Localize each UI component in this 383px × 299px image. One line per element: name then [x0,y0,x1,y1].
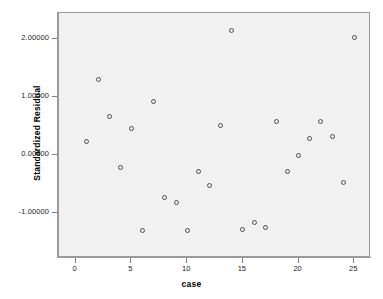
data-point [296,153,301,158]
x-axis-title: case [0,279,383,289]
data-point [263,225,268,230]
data-point [162,195,167,200]
data-point [129,126,134,131]
data-point [107,114,112,119]
data-point [140,228,145,233]
x-tick-label: 5 [115,264,145,273]
data-point [229,28,234,33]
x-tick-label: 25 [338,264,368,273]
data-point [307,136,312,141]
x-tick-mark [75,258,76,263]
x-tick-label: 20 [283,264,313,273]
x-tick-label: 10 [171,264,201,273]
data-point [352,35,357,40]
x-axis-line [58,257,371,258]
data-points-layer [59,13,369,256]
x-tick-mark [353,258,354,263]
data-point [207,183,212,188]
x-tick-mark [130,258,131,263]
plot-area [58,12,370,257]
data-point [196,169,201,174]
x-tick-label: 0 [60,264,90,273]
data-point [252,220,257,225]
data-point [330,134,335,139]
x-tick-mark [242,258,243,263]
x-tick-label: 15 [227,264,257,273]
data-point [174,200,179,205]
data-point [151,99,156,104]
y-tick-mark [52,96,57,97]
data-point [274,119,279,124]
y-axis-title: Standardized Residual [32,33,42,233]
y-tick-mark [52,212,57,213]
data-point [84,139,89,144]
data-point [240,227,245,232]
scatter-chart: 2.000001.000000.00000-1.00000 0510152025… [0,0,383,299]
data-point [218,123,223,128]
data-point [118,165,123,170]
y-tick-mark [52,38,57,39]
data-point [185,228,190,233]
y-axis-line [57,12,58,258]
data-point [96,77,101,82]
x-tick-mark [186,258,187,263]
data-point [318,119,323,124]
data-point [341,180,346,185]
data-point [285,169,290,174]
x-tick-mark [298,258,299,263]
y-tick-mark [52,154,57,155]
